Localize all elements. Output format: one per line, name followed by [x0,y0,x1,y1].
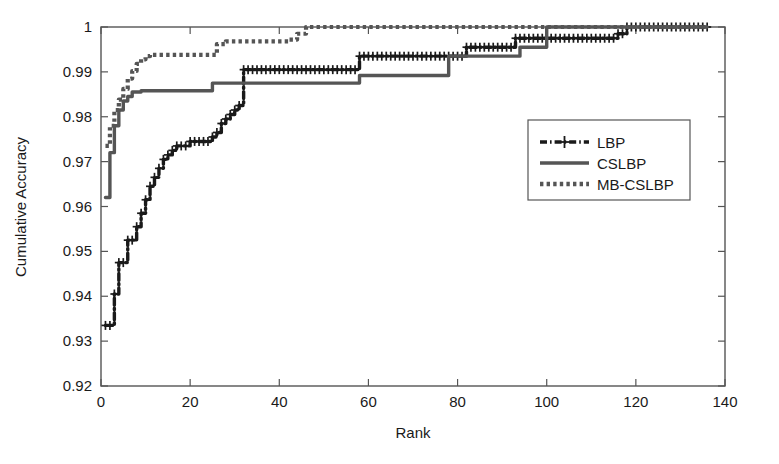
y-tick-label: 0.98 [63,108,92,125]
x-tick-label: 100 [534,393,559,410]
y-tick-label: 0.95 [63,242,92,259]
y-tick-label: 0.96 [63,198,92,215]
y-tick-label: 0.97 [63,153,92,170]
x-tick-label: 60 [360,393,377,410]
x-tick-label: 120 [623,393,648,410]
y-tick-label: 0.93 [63,332,92,349]
y-tick-label: 0.92 [63,377,92,394]
x-tick-label: 20 [182,393,199,410]
chart-background [0,0,779,464]
y-tick-label: 0.94 [63,287,92,304]
y-axis-tick-labels: 0.920.930.940.950.960.970.980.991 [63,18,92,394]
x-tick-label: 80 [449,393,466,410]
legend-label-lbp: LBP [597,134,625,151]
figure-container: 0.920.930.940.950.960.970.980.991 020406… [0,0,779,464]
legend-label-mb-cslbp: MB-CSLBP [597,176,674,193]
legend-label-cslbp: CSLBP [597,155,646,172]
x-axis-title: Rank [395,424,431,441]
cumulative-accuracy-chart: 0.920.930.940.950.960.970.980.991 020406… [0,0,779,464]
y-tick-label: 0.99 [63,63,92,80]
y-axis-title: Cumulative Accuracy [12,136,29,277]
x-tick-label: 140 [712,393,737,410]
x-tick-label: 0 [97,393,105,410]
y-tick-label: 1 [84,18,92,35]
x-tick-label: 40 [271,393,288,410]
legend: LBPCSLBPMB-CSLBP [528,120,690,200]
